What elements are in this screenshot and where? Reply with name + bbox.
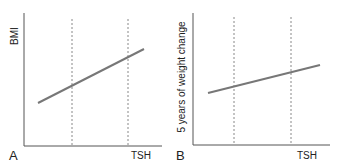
trend-line	[208, 65, 320, 93]
y-axis-label: 5 years of weight change	[176, 21, 187, 133]
panel-label: A	[9, 148, 18, 163]
panel-label: B	[176, 148, 185, 163]
panel-a: BMI TSH A	[9, 13, 162, 163]
figure: BMI TSH A 5 years of weight change TSH B	[0, 0, 337, 165]
panel-b: 5 years of weight change TSH B	[176, 13, 330, 163]
x-axis-label: TSH	[297, 150, 317, 161]
x-axis-label: TSH	[131, 150, 151, 161]
y-axis-label: BMI	[9, 27, 20, 45]
